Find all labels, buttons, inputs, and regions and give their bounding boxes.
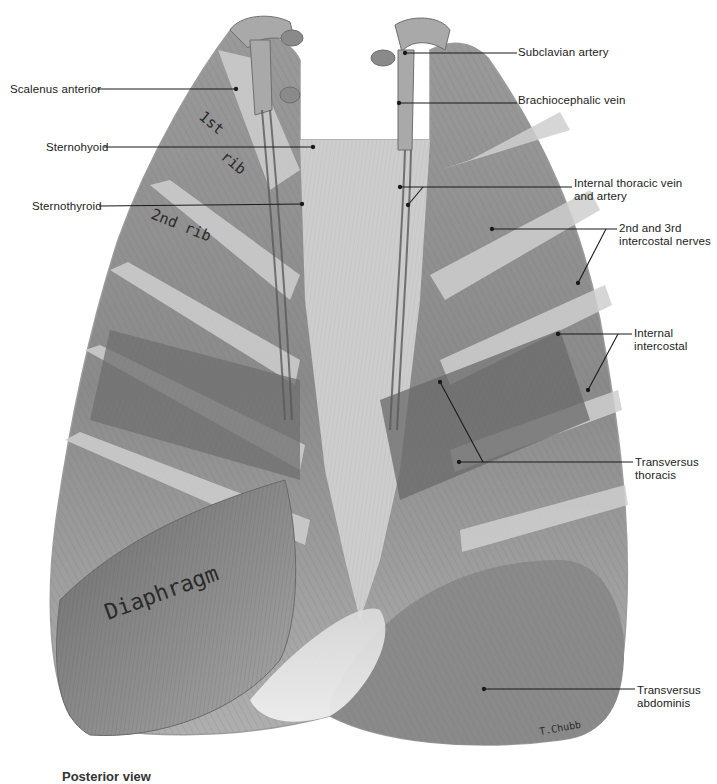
label-internal-thoracic-vein-artery: Internal thoracic vein and artery <box>574 177 682 203</box>
label-brachiocephalic-vein: Brachiocephalic vein <box>518 94 625 107</box>
label-line-1: Transversus <box>637 684 701 697</box>
label-sternothyroid: Sternothyroid <box>32 200 102 213</box>
leader-dot-internal-intercostal <box>556 332 559 335</box>
leader-dot-internal-thoracic-vein-artery <box>398 185 401 188</box>
label-line-1: Internal thoracic vein <box>574 177 682 190</box>
leader-dot-transversus-abdominis <box>482 687 485 690</box>
label-line-2: and artery <box>574 190 682 203</box>
label-line-2: abdominis <box>637 697 701 710</box>
leader-dot-brachiocephalic-vein <box>397 101 400 104</box>
leader-dot-intercostal-nerves <box>576 281 579 284</box>
label-transversus-thoracis: Transversus thoracis <box>635 456 699 482</box>
label-line-2: intercostal <box>634 340 688 353</box>
label-line-1: Internal <box>634 327 688 340</box>
label-internal-intercostal: Internal intercostal <box>634 327 688 353</box>
label-line-2: thoracis <box>635 469 699 482</box>
label-sternohyoid: Sternohyoid <box>46 141 108 154</box>
label-scalenus-anterior: Scalenus anterior <box>10 83 101 96</box>
leader-dot-internal-thoracic-vein-artery <box>406 203 409 206</box>
leader-dot-sternothyroid <box>300 202 303 205</box>
label-subclavian-artery: Subclavian artery <box>518 46 609 59</box>
leader-dot-intercostal-nerves <box>490 227 493 230</box>
label-line-1: 2nd and 3rd <box>619 222 711 235</box>
label-line-1: Transversus <box>635 456 699 469</box>
leader-dot-sternohyoid <box>311 145 314 148</box>
label-transversus-abdominis: Transversus abdominis <box>637 684 701 710</box>
leader-dot-scalenus-anterior <box>234 87 237 90</box>
leader-dot-subclavian-artery <box>403 51 406 54</box>
leader-dot-transversus-thoracis <box>457 460 460 463</box>
leader-dot-internal-intercostal <box>586 388 589 391</box>
figure-caption-partial: Posterior view <box>62 769 151 784</box>
label-intercostal-nerves: 2nd and 3rd intercostal nerves <box>619 222 711 248</box>
leader-dot-transversus-thoracis <box>438 380 441 383</box>
label-line-2: intercostal nerves <box>619 235 711 248</box>
